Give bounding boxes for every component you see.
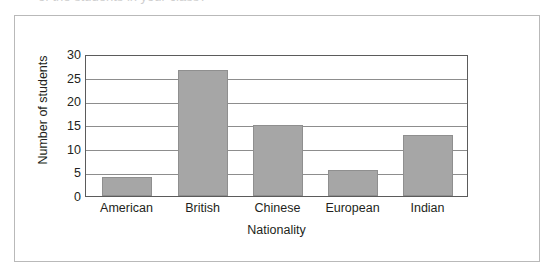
- gridline-20: [86, 103, 467, 104]
- y-axis-tick-labels: 30 25 20 15 10 5 0: [47, 55, 81, 197]
- bar-chart: Number of students 30 25 20 15 10 5 0 Am…: [15, 16, 541, 263]
- x-tick-label-indian: Indian: [386, 201, 469, 216]
- y-tick-label-15: 15: [51, 120, 81, 132]
- gridline-25: [86, 79, 467, 80]
- y-tick-label-20: 20: [51, 96, 81, 108]
- plot-area: [85, 55, 468, 197]
- x-tick-label-chinese: Chinese: [236, 201, 319, 216]
- x-tick-label-american: American: [85, 201, 168, 216]
- y-tick-label-5: 5: [51, 167, 81, 179]
- x-tick-label-british: British: [161, 201, 244, 216]
- figure-frame: Number of students 30 25 20 15 10 5 0 Am…: [14, 15, 540, 262]
- scan-artifact-top-text: of the students in your class?: [0, 0, 553, 12]
- y-tick-label-30: 30: [51, 49, 81, 61]
- x-axis-title: Nationality: [85, 223, 468, 237]
- bar-chinese[interactable]: [253, 125, 303, 196]
- y-tick-label-25: 25: [51, 73, 81, 85]
- bar-indian[interactable]: [403, 135, 453, 196]
- x-tick-label-european: European: [311, 201, 394, 216]
- bar-european[interactable]: [328, 170, 378, 196]
- scan-artifact-glyphs: of the students in your class?: [38, 0, 206, 4]
- bar-british[interactable]: [178, 70, 228, 196]
- y-tick-label-10: 10: [51, 144, 81, 156]
- bar-american[interactable]: [102, 177, 152, 196]
- y-tick-label-0: 0: [51, 191, 81, 203]
